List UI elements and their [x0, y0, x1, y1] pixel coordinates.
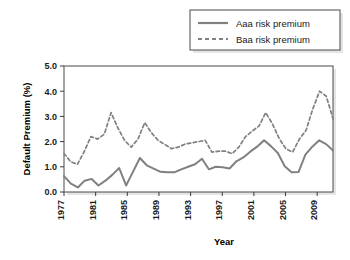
x-tick-label: 1985	[119, 200, 129, 220]
y-tick-label: 0.0	[44, 187, 57, 197]
x-tick-label: 1989	[151, 200, 161, 220]
x-tick-label: 2005	[278, 200, 288, 220]
y-tick-label: 2.0	[44, 137, 57, 147]
legend-label-baa: Baa risk premium	[236, 34, 310, 45]
y-tick-label: 4.0	[44, 87, 57, 97]
x-tick-label: 1993	[183, 200, 193, 220]
x-tick-label: 1981	[88, 200, 98, 220]
y-axis-title: Default Premium (%)	[21, 83, 32, 176]
y-tick-label: 5.0	[44, 61, 57, 71]
x-tick-label: 1977	[56, 200, 66, 220]
x-tick-label: 2001	[246, 200, 256, 220]
x-tick-label: 1997	[214, 200, 224, 220]
x-tick-label: 2009	[309, 200, 319, 220]
chart-figure: Aaa risk premium Baa risk premium 0.01.0…	[0, 0, 350, 260]
y-tick-label: 1.0	[44, 162, 57, 172]
legend-label-aaa: Aaa risk premium	[236, 18, 310, 29]
x-axis-title: Year	[214, 236, 234, 247]
y-tick-label: 3.0	[44, 112, 57, 122]
